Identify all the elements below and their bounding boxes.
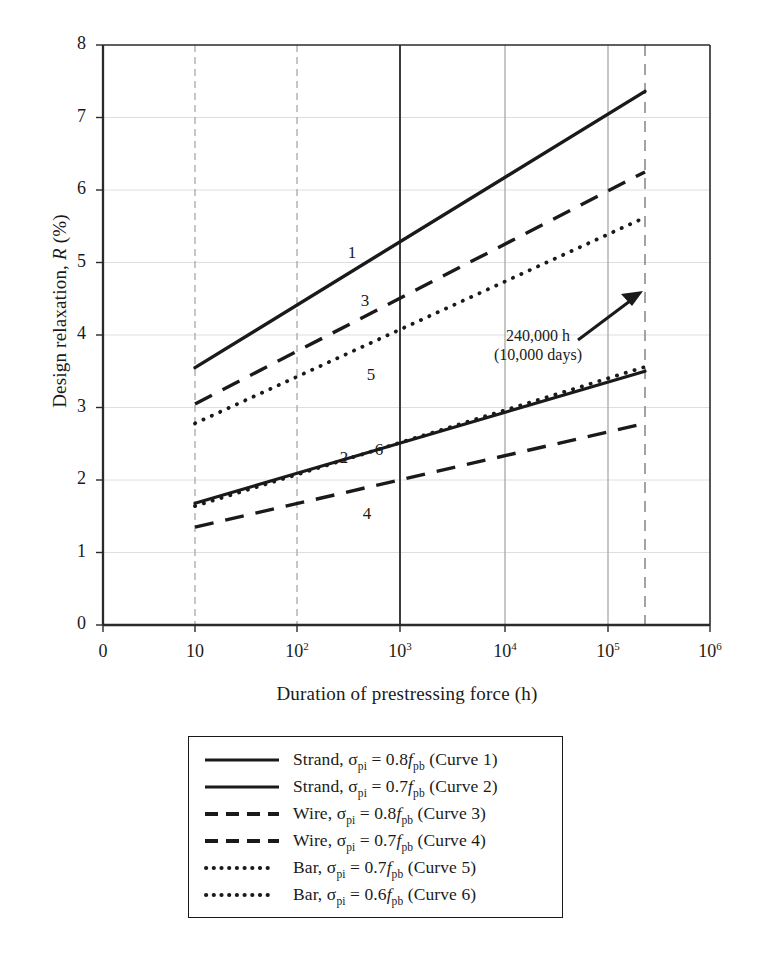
curve-label-6: 6 <box>368 440 390 460</box>
legend-item-curve-3: Wire, σpi = 0.8fpb (Curve 3) <box>189 800 562 827</box>
curve-3-wire-08 <box>195 172 645 404</box>
legend: Strand, σpi = 0.8fpb (Curve 1) Strand, σ… <box>188 736 563 918</box>
legend-swatch-solid-icon <box>203 780 281 794</box>
annotation-240000h: 240,000 h (10,000 days) <box>453 327 623 365</box>
curve-label-3: 3 <box>354 291 376 311</box>
curve-label-1: 1 <box>341 243 363 263</box>
legend-item-curve-1: Strand, σpi = 0.8fpb (Curve 1) <box>189 746 562 773</box>
relaxation-chart-figure: 8 7 6 5 4 3 2 1 0 0 10 102 103 104 105 1… <box>0 0 759 954</box>
y-axis-title-prefix: Design relaxation, <box>49 260 70 408</box>
ytick-label-1: 1 <box>56 541 86 562</box>
y-axis-title-suffix: (%) <box>49 214 70 248</box>
curve-label-4: 4 <box>356 504 378 524</box>
curve-4-wire-07 <box>195 423 645 527</box>
curve-label-2: 2 <box>333 448 355 468</box>
legend-label-curve-5: Bar, σpi = 0.7fpb (Curve 5) <box>293 857 476 878</box>
legend-label-curve-4: Wire, σpi = 0.7fpb (Curve 4) <box>293 830 486 851</box>
xtick-label-1e6: 106 <box>690 641 730 662</box>
xtick-label-0: 0 <box>83 641 123 662</box>
plot-area <box>0 0 759 700</box>
legend-item-curve-2: Strand, σpi = 0.7fpb (Curve 2) <box>189 773 562 800</box>
xtick-label-1e2: 102 <box>277 641 317 662</box>
ytick-label-0: 0 <box>56 613 86 634</box>
legend-swatch-dotted-icon <box>203 861 281 875</box>
legend-label-curve-3: Wire, σpi = 0.8fpb (Curve 3) <box>293 803 486 824</box>
legend-swatch-solid-icon <box>203 753 281 767</box>
xtick-label-10: 10 <box>175 641 215 662</box>
annotation-line-1: 240,000 h <box>453 327 623 346</box>
y-axis-title-variable: R <box>49 248 70 260</box>
legend-item-curve-5: Bar, σpi = 0.7fpb (Curve 5) <box>189 854 562 881</box>
legend-swatch-dashed-icon <box>203 807 281 821</box>
xtick-label-1e5: 105 <box>588 641 628 662</box>
legend-swatch-dotted-icon <box>203 888 281 902</box>
annotation-line-2: (10,000 days) <box>453 346 623 365</box>
legend-label-curve-6: Bar, σpi = 0.6fpb (Curve 6) <box>293 884 476 905</box>
x-axis-title: Duration of prestressing force (h) <box>103 683 711 705</box>
xtick-label-1e4: 104 <box>485 641 525 662</box>
legend-item-curve-4: Wire, σpi = 0.7fpb (Curve 4) <box>189 827 562 854</box>
y-axis-title: Design relaxation, R (%) <box>49 101 71 521</box>
legend-label-curve-1: Strand, σpi = 0.8fpb (Curve 1) <box>293 749 498 770</box>
legend-label-curve-2: Strand, σpi = 0.7fpb (Curve 2) <box>293 776 498 797</box>
xtick-label-1e3: 103 <box>380 641 420 662</box>
legend-item-curve-6: Bar, σpi = 0.6fpb (Curve 6) <box>189 881 562 908</box>
legend-swatch-dashed-icon <box>203 834 281 848</box>
ytick-label-8: 8 <box>56 33 86 54</box>
curve-label-5: 5 <box>360 365 382 385</box>
